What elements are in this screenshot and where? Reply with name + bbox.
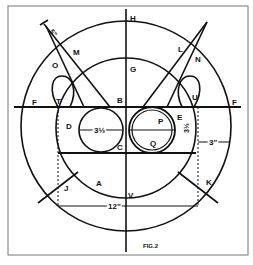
label-f-left: F xyxy=(32,98,37,107)
technical-drawing: H G F F B C D E P Q T U M N O L J K A V … xyxy=(0,0,253,265)
label-b: B xyxy=(117,96,123,105)
label-v: V xyxy=(128,191,134,200)
label-q: Q xyxy=(150,139,156,148)
label-k: K xyxy=(206,178,212,187)
label-j: J xyxy=(64,184,68,193)
label-f-right: F xyxy=(232,98,237,107)
label-o: O xyxy=(52,61,58,70)
dim-rim: 3" xyxy=(209,138,217,147)
label-m: M xyxy=(73,48,80,57)
label-g: G xyxy=(130,65,136,74)
label-e: E xyxy=(177,113,183,122)
dim-circle-p: 3½ xyxy=(183,123,190,133)
dim-circle-d: 3½ xyxy=(94,126,105,135)
label-p: P xyxy=(158,117,164,126)
label-c: C xyxy=(117,143,123,152)
drawing-border xyxy=(8,6,248,255)
label-l: L xyxy=(178,45,183,54)
label-d: D xyxy=(66,122,72,131)
figure-caption: FIG.2 xyxy=(143,243,159,249)
label-h: H xyxy=(130,14,136,23)
label-t: T xyxy=(56,97,61,106)
label-n: N xyxy=(195,55,201,64)
dim-span: 12" xyxy=(108,202,121,211)
label-u: U xyxy=(192,93,198,102)
label-a: A xyxy=(96,179,102,188)
